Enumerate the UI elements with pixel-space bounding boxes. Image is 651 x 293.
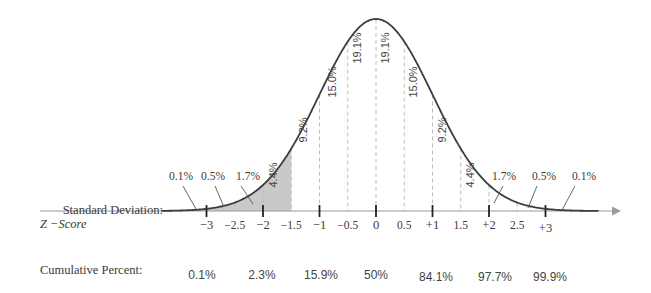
cumulative-percent-value: 15.9% <box>304 268 338 282</box>
z-tick-label: −0.5 <box>337 219 358 231</box>
z-tick-label: 0.5 <box>397 219 412 231</box>
band-percent-label: 9.2% <box>297 117 309 142</box>
band-percent-labels: 4.4%9.2%15.0%19.1%19.1%15.0%9.2%4.4%0.1%… <box>169 32 596 210</box>
half-sd-dashed-lines <box>291 19 517 211</box>
z-tick-label: 2.5 <box>510 219 525 231</box>
cumulative-percent-labels: 0.1%2.3%15.9%50%84.1%97.7%99.9% <box>188 268 567 284</box>
band-percent-label: 4.4% <box>267 162 279 187</box>
leader-line <box>215 186 224 207</box>
cumulative-percent-value: 50% <box>364 268 388 282</box>
band-percent-label: 19.1% <box>351 32 363 63</box>
band-percent-label: 19.1% <box>379 32 391 63</box>
band-percent-label: 1.7% <box>236 170 260 182</box>
band-percent-label: 0.5% <box>532 170 556 182</box>
standard-deviation-label: Standard Deviation: <box>63 203 163 217</box>
band-percent-label: 0.1% <box>169 170 193 182</box>
cumulative-percent-value: 0.1% <box>188 268 216 282</box>
z-tick-label: −1.5 <box>281 219 302 231</box>
axis-arrow-icon <box>612 207 621 216</box>
z-tick-label: −2 <box>256 218 269 232</box>
band-percent-label: 9.2% <box>436 117 448 142</box>
leader-line <box>183 186 196 209</box>
normal-distribution-chart: 4.4%9.2%15.0%19.1%19.1%15.0%9.2%4.4%0.1%… <box>0 0 651 293</box>
z-score-tick-labels: −3−2.5−2−1.5−1−0.500.5+11.5+22.5+3 <box>200 218 552 235</box>
cumulative-percent-value: 2.3% <box>248 268 276 282</box>
z-tick-label: 0 <box>373 218 379 232</box>
z-tick-label: −3 <box>200 218 213 232</box>
band-percent-label: 15.0% <box>326 66 338 97</box>
cumulative-percent-label: Cumulative Percent: <box>40 263 142 277</box>
band-percent-label: 15.0% <box>407 66 419 97</box>
band-percent-label: 4.4% <box>464 162 476 187</box>
z-tick-label: 1.5 <box>454 219 469 231</box>
z-tick-label: −1 <box>313 218 326 232</box>
cumulative-percent-value: 99.9% <box>533 270 567 284</box>
leader-line <box>528 186 537 208</box>
z-tick-label: +2 <box>482 218 495 232</box>
cumulative-percent-value: 97.7% <box>478 270 512 284</box>
z-tick-label: −2.5 <box>224 219 245 231</box>
leader-line <box>562 186 575 210</box>
z-tick-label: +3 <box>539 221 552 235</box>
band-percent-label: 1.7% <box>492 170 516 182</box>
band-percent-label: 0.5% <box>201 170 225 182</box>
band-percent-label: 0.1% <box>572 170 596 182</box>
z-score-label: Z −Score <box>40 217 87 231</box>
z-tick-label: +1 <box>426 218 439 232</box>
cumulative-percent-value: 84.1% <box>419 270 453 284</box>
